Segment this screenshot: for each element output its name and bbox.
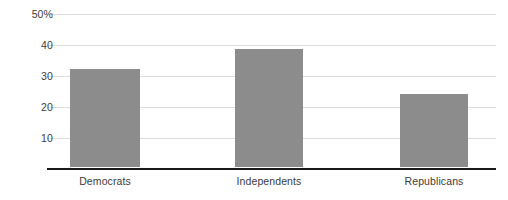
bar-independents (235, 49, 303, 167)
x-axis-tick-label-democrats: Democrats (79, 176, 131, 187)
gridline-40 (47, 45, 496, 46)
x-axis-line (47, 168, 496, 170)
bar-democrats (70, 69, 140, 167)
y-axis-tick-label-40: 40 (11, 40, 53, 51)
y-axis-tick-label-20: 20 (11, 102, 53, 113)
y-axis-tick-label-50: 50% (11, 9, 53, 20)
y-axis-tick-label-30: 30 (11, 71, 53, 82)
bar-republicans (400, 94, 468, 168)
x-axis-tick-label-independents: Independents (237, 176, 302, 187)
x-axis-tick-label-republicans: Republicans (405, 176, 464, 187)
bar-chart: 50% 40 30 20 10 Democrats Independents R… (0, 0, 508, 200)
gridline-50 (47, 14, 496, 15)
y-axis-tick-label-10: 10 (11, 133, 53, 144)
